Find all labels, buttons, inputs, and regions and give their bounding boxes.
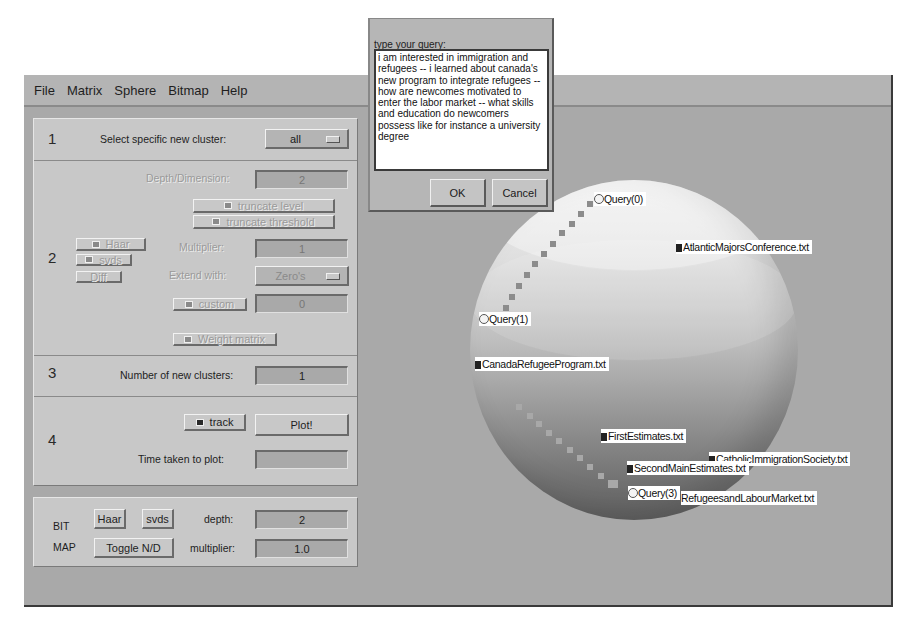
extend-with-menu[interactable]: Zero's <box>255 266 349 286</box>
document-first-estimates[interactable]: FirstEstimates.txt <box>601 429 686 443</box>
map-label: MAP <box>53 541 76 553</box>
sphere-band <box>470 240 798 361</box>
number-of-new-clusters-label: Number of new clusters: <box>120 369 233 381</box>
ok-button[interactable]: OK <box>430 179 486 207</box>
query-1-marker[interactable]: Query(1) <box>479 312 531 326</box>
bitmap-haar-button[interactable]: Haar <box>94 509 126 529</box>
trajectory-dot <box>559 230 565 236</box>
bitmap-panel: BIT MAP Haar svds Toggle N/D depth: mult… <box>33 497 358 567</box>
trajectory-dot <box>546 430 552 436</box>
trajectory-dot <box>527 413 533 419</box>
document-second-main-estimates[interactable]: SecondMainEstimates.txt <box>627 461 749 475</box>
diff-label: Diff <box>90 271 106 283</box>
bitmap-depth-field[interactable]: 2 <box>255 510 348 529</box>
track-toggle[interactable]: track <box>184 414 246 431</box>
trajectory-dot <box>598 473 604 479</box>
toggle-nd-button[interactable]: Toggle N/D <box>94 538 174 558</box>
menu-sphere[interactable]: Sphere <box>114 83 156 98</box>
query-point-icon <box>628 488 638 498</box>
query-3-marker[interactable]: Query(3) <box>628 486 680 500</box>
query-3-label: Query(3) <box>638 487 677 499</box>
document-point-icon <box>676 244 682 252</box>
plot-button[interactable]: Plot! <box>255 414 349 436</box>
custom-toggle[interactable]: custom <box>173 298 247 311</box>
bit-label: BIT <box>53 520 69 532</box>
toggle-indicator-icon <box>184 336 192 343</box>
diff-radio[interactable]: Diff <box>76 271 122 283</box>
section-4: 4 track Plot! Time taken to plot: <box>34 397 357 485</box>
toggle-indicator-icon <box>196 419 204 426</box>
radio-indicator-icon <box>92 241 100 248</box>
document-point-icon <box>627 465 633 473</box>
query-0-label: Query(0) <box>604 193 643 205</box>
truncate-level-toggle[interactable]: truncate level <box>193 199 335 213</box>
cancel-button[interactable]: Cancel <box>492 179 548 207</box>
depth-dimension-label: Depth/Dimension: <box>146 172 229 184</box>
option-menu-indicator-icon <box>326 273 340 280</box>
section-number: 4 <box>48 431 56 448</box>
trajectory-dot <box>516 283 522 289</box>
haar-radio[interactable]: Haar <box>76 238 146 251</box>
document-atlantic-majors-conference[interactable]: AtlanticMajorsConference.txt <box>676 240 812 254</box>
toggle-indicator-icon <box>224 202 232 209</box>
document-label: SecondMainEstimates.txt <box>634 462 746 474</box>
trajectory-dot <box>567 447 573 453</box>
cluster-select-value: all <box>266 130 325 147</box>
time-taken-field <box>255 450 348 469</box>
document-label: RefugeesandLabourMarket.txt <box>681 492 814 504</box>
trajectory-dot <box>503 305 509 311</box>
extend-with-value: Zero's <box>256 267 325 284</box>
query-point-icon <box>594 194 604 204</box>
toggle-indicator-icon <box>212 218 220 225</box>
weight-matrix-label: Weight matrix <box>198 333 265 345</box>
trajectory-dot <box>536 421 542 427</box>
menu-matrix[interactable]: Matrix <box>67 83 102 98</box>
trajectory-dot <box>524 272 530 278</box>
select-cluster-label: Select specific new cluster: <box>100 133 226 145</box>
truncate-level-label: truncate level <box>238 200 303 212</box>
menu-help[interactable]: Help <box>221 83 248 98</box>
weight-matrix-toggle[interactable]: Weight matrix <box>173 333 277 346</box>
document-point-icon <box>475 361 481 369</box>
track-label: track <box>210 416 234 428</box>
query-input[interactable]: i am interested in immigration and refug… <box>374 49 549 171</box>
truncate-threshold-label: truncate threshold <box>226 216 314 228</box>
document-canada-refugee-program[interactable]: CanadaRefugeeProgram.txt <box>475 357 609 371</box>
radio-indicator-icon <box>85 256 93 263</box>
trajectory-dot <box>516 404 522 410</box>
bitmap-svds-button[interactable]: svds <box>142 509 174 529</box>
section-2: 2 Depth/Dimension: 2 truncate level trun… <box>34 161 357 356</box>
multiplier-field[interactable]: 1 <box>255 239 348 258</box>
trajectory-dot <box>550 241 556 247</box>
document-point-icon <box>601 433 607 441</box>
document-refugees-and-labour-market[interactable]: RefugeesandLabourMarket.txt <box>681 491 817 505</box>
svds-radio[interactable]: svds <box>76 254 132 266</box>
bitmap-multiplier-label: multiplier: <box>190 542 235 554</box>
trajectory-dot <box>578 211 584 217</box>
section-3: 3 Number of new clusters: 1 <box>34 356 357 397</box>
depth-dimension-field[interactable]: 2 <box>255 170 348 189</box>
extend-with-label: Extend with: <box>169 269 226 281</box>
haar-label: Haar <box>106 238 130 250</box>
trajectory-dot <box>587 464 593 470</box>
query-1-label: Query(1) <box>489 313 528 325</box>
menu-file[interactable]: File <box>34 83 55 98</box>
svds-label: svds <box>99 254 122 266</box>
time-taken-label: Time taken to plot: <box>138 453 224 465</box>
trajectory-dot <box>577 455 583 461</box>
trajectory-dot <box>556 438 562 444</box>
trajectory-dot <box>509 294 515 300</box>
cluster-select-menu[interactable]: all <box>265 129 349 149</box>
option-menu-indicator-icon <box>326 136 340 143</box>
trajectory-dot <box>587 201 593 207</box>
trajectory-dot <box>541 251 547 257</box>
truncate-threshold-toggle[interactable]: truncate threshold <box>193 215 335 229</box>
bitmap-multiplier-field[interactable]: 1.0 <box>255 539 348 558</box>
trajectory-arrow-icon <box>608 480 618 488</box>
number-of-new-clusters-field[interactable]: 1 <box>255 366 348 385</box>
multiplier-label: Multiplier: <box>179 241 224 253</box>
custom-value-field[interactable]: 0 <box>255 294 348 313</box>
document-label: CanadaRefugeeProgram.txt <box>482 358 606 370</box>
menu-bitmap[interactable]: Bitmap <box>168 83 208 98</box>
query-0-marker[interactable]: Query(0) <box>594 192 646 206</box>
